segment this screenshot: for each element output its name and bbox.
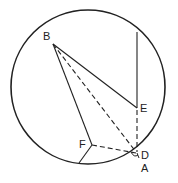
label-D: D	[141, 149, 149, 161]
circle	[11, 10, 165, 164]
label-A: A	[141, 162, 149, 174]
label-E: E	[140, 102, 147, 114]
label-F: F	[79, 138, 86, 150]
label-B: B	[43, 30, 50, 42]
geometry-diagram: B E F D A	[0, 0, 178, 183]
